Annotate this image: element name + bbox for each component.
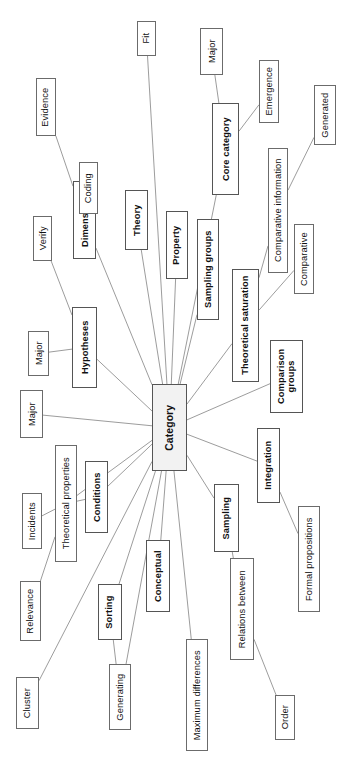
edge-dimensions-to-evidence [56, 136, 73, 186]
node-label-sampling-groups: Sampling groups [203, 231, 213, 308]
node-label-conceptual: Conceptual [153, 550, 163, 602]
node-verify: Verify [33, 216, 52, 261]
node-conditions: Conditions [85, 461, 108, 533]
edge-comparative-information-to-generated [288, 137, 314, 190]
edge-category-to-sampling-groups [180, 315, 197, 384]
node-category: Category [152, 384, 187, 471]
node-evidence: Evidence [36, 78, 56, 136]
node-label-theoretical-properties: Theoretical properties [61, 457, 71, 549]
node-generated: Generated [314, 85, 336, 145]
node-major-category: Major [20, 390, 43, 438]
node-emergence: Emergence [259, 60, 279, 123]
node-incidents: Incidents [22, 493, 42, 549]
node-relations-between: Relations between [230, 558, 254, 660]
edge-category-to-hypotheses [97, 359, 152, 411]
node-label-emergence: Emergence [264, 67, 274, 115]
node-label-coding: Coding [83, 173, 93, 203]
edge-core-category-to-major-core [215, 75, 219, 103]
edge-core-category-to-emergence [239, 105, 259, 131]
edge-category-to-fit [148, 56, 167, 384]
node-label-comparative: Comparative [299, 232, 309, 286]
node-label-sorting: Sorting [105, 595, 115, 628]
node-label-major-category: Major [26, 402, 36, 426]
node-label-fit: Fit [141, 33, 151, 44]
edge-category-to-sampling [187, 455, 214, 498]
node-label-generated: Generated [320, 93, 330, 138]
node-sorting: Sorting [98, 584, 122, 640]
mindmap-canvas: CategoryDimensionsTheoryPropertySampling… [0, 0, 348, 780]
node-comparative: Comparative [294, 224, 314, 294]
edge-integration-to-formal-propositions [280, 492, 298, 534]
edge-hypotheses-to-major-hypotheses [49, 349, 72, 352]
node-label-theory: Theory [131, 204, 141, 236]
node-label-generating: Generating [115, 674, 125, 721]
node-integration: Integration [257, 428, 280, 503]
node-label-hypotheses: Hypotheses [79, 321, 89, 375]
node-relevance: Relevance [20, 581, 41, 641]
node-label-incidents: Incidents [27, 502, 37, 540]
node-maximum-differences: Maximum differences [186, 639, 208, 751]
node-generating: Generating [109, 664, 131, 730]
node-label-conditions: Conditions [91, 472, 101, 522]
node-theoretical-properties: Theoretical properties [55, 445, 77, 562]
edge-sorting-to-generating [113, 640, 116, 664]
node-hypotheses: Hypotheses [72, 307, 97, 388]
edge-category-to-conditions [108, 444, 152, 486]
node-cluster: Cluster [16, 677, 39, 729]
node-sampling: Sampling [214, 484, 239, 552]
node-comparative-information: Comparative information [268, 148, 288, 273]
node-formal-propositions: Formal propositions [298, 506, 320, 612]
node-sampling-groups: Sampling groups [197, 219, 219, 320]
edge-category-to-integration [187, 434, 257, 461]
node-label-cluster: Cluster [22, 688, 32, 718]
edge-category-to-theoretical-saturation [187, 344, 232, 404]
node-label-verify: Verify [37, 227, 47, 251]
node-property: Property [166, 211, 188, 279]
node-label-relevance: Relevance [25, 589, 35, 634]
node-label-relations-between: Relations between [237, 570, 247, 648]
edge-category-to-major-category [43, 415, 152, 426]
node-label-formal-propositions: Formal propositions [304, 517, 314, 601]
node-label-major-hypotheses: Major [33, 342, 43, 366]
edge-theoretical-saturation-to-comparative-information [259, 246, 268, 278]
node-major-core: Major [200, 28, 223, 75]
node-comparison-groups: Comparison groups [270, 340, 303, 413]
edge-category-to-maximum-differences [174, 471, 191, 639]
node-theoretical-saturation: Theoretical saturation [232, 269, 259, 382]
edge-theoretical-saturation-to-comparative [259, 270, 294, 310]
node-label-theoretical-saturation: Theoretical saturation [240, 276, 250, 375]
node-label-major-core: Major [206, 40, 216, 64]
edge-category-to-dimensions [96, 248, 152, 385]
edge-hypotheses-to-verify [51, 261, 72, 315]
node-label-evidence: Evidence [41, 87, 51, 126]
node-fit: Fit [137, 21, 156, 56]
node-major-hypotheses: Major [28, 331, 49, 376]
node-label-order: Order [280, 705, 290, 729]
node-label-sampling: Sampling [221, 497, 231, 540]
node-label-property: Property [172, 225, 182, 264]
node-label-maximum-differences: Maximum differences [192, 650, 202, 740]
node-core-category: Core category [212, 103, 239, 195]
node-label-comparison-groups: Comparison groups [276, 349, 297, 404]
node-label-category: Category [164, 405, 176, 451]
edge-theoretical-properties-to-incidents [42, 509, 55, 516]
edge-relations-between-to-order [254, 639, 276, 695]
edge-category-to-comparison-groups [187, 384, 270, 420]
node-order: Order [275, 695, 295, 740]
edge-category-to-property [171, 279, 175, 384]
node-label-comparative-information: Comparative information [273, 159, 283, 263]
node-label-core-category: Core category [220, 117, 230, 181]
node-conceptual: Conceptual [146, 540, 170, 612]
edge-category-to-conceptual [161, 471, 166, 540]
edge-conditions-to-theoretical-properties [77, 499, 85, 501]
node-coding: Coding [79, 162, 98, 214]
edge-category-to-theory [141, 250, 162, 384]
edge-theoretical-properties-to-relevance [40, 537, 55, 581]
node-label-integration: Integration [263, 441, 273, 490]
node-theory: Theory [125, 190, 148, 250]
